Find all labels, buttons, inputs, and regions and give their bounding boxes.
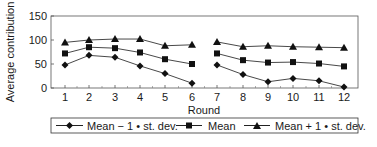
line-chart: 050100150123456789101112 Average contrib… [0, 0, 377, 147]
x-tick-label: 8 [240, 91, 246, 103]
svg-text:Mean: Mean [208, 120, 236, 132]
square-marker-icon [162, 56, 168, 62]
plot-area: 050100150123456789101112 [29, 10, 358, 103]
x-tick-label: 9 [265, 91, 271, 103]
diamond-marker-icon [265, 78, 272, 85]
diamond-marker-icon [189, 80, 196, 87]
diamond-marker-icon [316, 77, 323, 84]
square-marker-icon [62, 50, 68, 56]
series-mean-plus-sd-line [65, 39, 192, 46]
triangle-marker-icon [136, 35, 144, 42]
triangle-marker-icon [264, 42, 272, 49]
x-axis-title: Round [188, 104, 220, 116]
square-marker-icon [189, 61, 195, 67]
square-marker-icon [341, 63, 347, 69]
x-tick-label: 7 [214, 91, 220, 103]
diamond-marker-icon [240, 71, 247, 78]
square-marker-icon [316, 61, 322, 67]
legend-item-mean-plus-sd: Mean + 1 • st. dev. [244, 120, 366, 132]
square-marker-icon [240, 57, 246, 63]
series-mean-plus-sd-line [217, 42, 344, 48]
x-tick-label: 3 [112, 91, 118, 103]
diamond-marker-icon [137, 62, 144, 69]
y-tick-label: 100 [29, 34, 47, 46]
series-mean-minus-sd-line [217, 65, 344, 87]
triangle-marker-icon [213, 38, 221, 45]
diamond-marker-icon [62, 61, 69, 68]
square-marker-icon [290, 59, 296, 65]
square-marker-icon [186, 123, 192, 129]
diamond-marker-icon [214, 61, 221, 68]
diamond-marker-icon [341, 84, 348, 91]
square-marker-icon [137, 49, 143, 55]
legend: Mean − 1 • st. dev. Mean Mean + 1 • st. … [51, 118, 366, 133]
y-tick-label: 50 [35, 58, 47, 70]
square-marker-icon [265, 60, 271, 66]
y-tick-label: 150 [29, 10, 47, 22]
x-tick-label: 6 [189, 91, 195, 103]
legend-item-mean: Mean [176, 120, 236, 132]
x-tick-label: 5 [162, 91, 168, 103]
y-axis-title: Average contribution [4, 2, 16, 103]
x-tick-label: 4 [137, 91, 143, 103]
diamond-marker-icon [162, 70, 169, 77]
diamond-marker-icon [66, 122, 73, 129]
x-tick-label: 10 [287, 91, 299, 103]
triangle-marker-icon [111, 35, 119, 42]
series-mean-minus-sd-line [65, 55, 192, 83]
x-tick-label: 2 [86, 91, 92, 103]
plot-frame [51, 16, 358, 88]
triangle-marker-icon [188, 41, 196, 48]
square-marker-icon [86, 44, 92, 50]
diamond-marker-icon [112, 54, 119, 61]
diamond-marker-icon [86, 52, 93, 59]
series-mean-line [217, 53, 344, 66]
x-tick-label: 1 [62, 91, 68, 103]
square-marker-icon [214, 50, 220, 56]
y-tick-label: 0 [41, 82, 47, 94]
x-tick-label: 12 [338, 91, 350, 103]
legend-item-mean-minus-sd: Mean − 1 • st. dev. [56, 120, 178, 132]
x-tick-label: 11 [313, 91, 324, 103]
svg-text:Mean + 1 • st. dev.: Mean + 1 • st. dev. [275, 120, 366, 132]
svg-text:Mean − 1 • st. dev.: Mean − 1 • st. dev. [87, 120, 178, 132]
square-marker-icon [112, 45, 118, 51]
diamond-marker-icon [290, 75, 297, 82]
